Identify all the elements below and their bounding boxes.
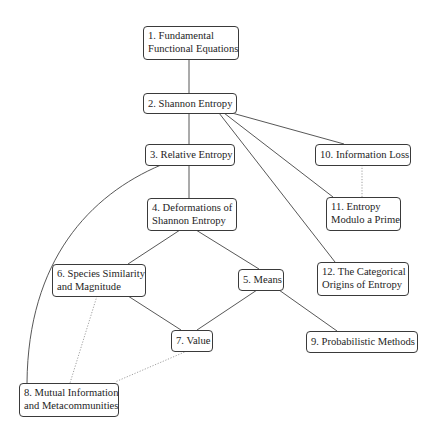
edge-5-9 bbox=[279, 290, 337, 331]
node-entropy-modulo-a-prime: 11. Entropy Modulo a Prime bbox=[326, 197, 401, 231]
node-4-line-1: 4. Deformations of bbox=[152, 202, 232, 215]
edge-6-7 bbox=[128, 296, 181, 330]
node-1-line-2: Functional Equations bbox=[148, 43, 234, 56]
node-relative-entropy: 3. Relative Entropy bbox=[145, 144, 235, 166]
edge-6-8-dotted bbox=[70, 296, 97, 383]
node-value: 7. Value bbox=[171, 330, 213, 352]
node-7-label: 7. Value bbox=[176, 335, 208, 348]
edge-4-5 bbox=[196, 230, 259, 269]
node-6-line-1: 6. Species Similarity bbox=[57, 268, 141, 281]
node-6-line-2: and Magnitude bbox=[57, 281, 141, 294]
node-11-line-2: Modulo a Prime bbox=[331, 214, 396, 227]
node-categorical-origins-of-entropy: 12. The Categorical Origins of Entropy bbox=[317, 262, 409, 296]
node-2-label: 2. Shannon Entropy bbox=[148, 98, 232, 111]
node-12-line-1: 12. The Categorical bbox=[322, 266, 404, 279]
node-fundamental-functional-equations: 1. Fundamental Functional Equations bbox=[143, 26, 239, 60]
node-5-label: 5. Means bbox=[243, 274, 279, 287]
edge-5-7 bbox=[197, 290, 257, 330]
edge-4-6 bbox=[128, 230, 180, 264]
node-8-line-1: 8. Mutual Information bbox=[24, 387, 114, 400]
node-species-similarity-and-magnitude: 6. Species Similarity and Magnitude bbox=[52, 264, 146, 297]
node-11-line-1: 11. Entropy bbox=[331, 201, 396, 214]
edge-2-10 bbox=[232, 113, 344, 144]
node-shannon-entropy: 2. Shannon Entropy bbox=[143, 93, 237, 114]
node-1-line-1: 1. Fundamental bbox=[148, 30, 234, 43]
node-information-loss: 10. Information Loss bbox=[315, 144, 411, 166]
node-3-label: 3. Relative Entropy bbox=[150, 149, 230, 162]
node-probabilistic-methods: 9. Probabilistic Methods bbox=[306, 331, 418, 353]
node-deformations-of-shannon-entropy: 4. Deformations of Shannon Entropy bbox=[147, 198, 237, 231]
node-4-line-2: Shannon Entropy bbox=[152, 215, 232, 228]
node-means: 5. Means bbox=[238, 269, 284, 291]
node-10-label: 10. Information Loss bbox=[320, 149, 406, 162]
node-8-line-2: and Metacommunities bbox=[24, 400, 114, 413]
edge-7-8-dotted bbox=[115, 351, 187, 382]
node-mutual-information-and-metacommunities: 8. Mutual Information and Metacommunitie… bbox=[19, 383, 119, 417]
edge-2-12 bbox=[219, 113, 335, 262]
node-9-label: 9. Probabilistic Methods bbox=[311, 336, 413, 349]
node-12-line-2: Origins of Entropy bbox=[322, 279, 404, 292]
